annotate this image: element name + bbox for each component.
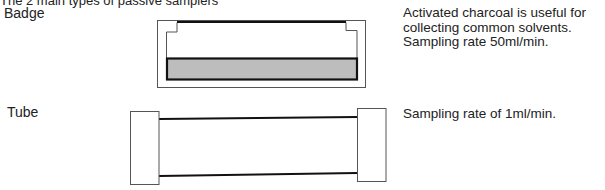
badge-sampler-drawing	[158, 21, 366, 88]
tube-left-cap	[131, 112, 160, 185]
tube-sampler-drawing	[131, 109, 387, 185]
tube-top-wall	[159, 117, 357, 119]
tube-right-cap	[358, 109, 387, 182]
badge-charcoal-pad	[167, 59, 357, 80]
tube-bottom-wall	[159, 173, 357, 176]
sampler-diagrams	[0, 0, 605, 190]
